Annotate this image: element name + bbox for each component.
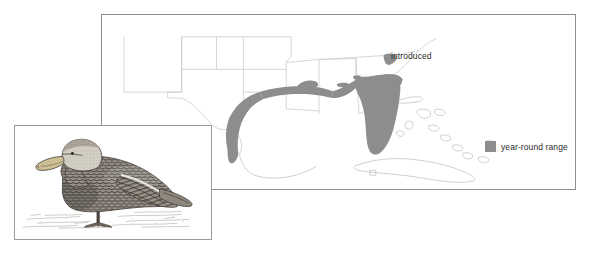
introduced-annotation-label: introduced xyxy=(391,51,432,61)
legend-swatch-year-round-range xyxy=(485,141,496,152)
illustration-panel xyxy=(14,125,212,240)
range-map-figure: introduced year-round range xyxy=(0,0,591,253)
legend-label-year-round-range: year-round range xyxy=(501,142,568,152)
year-round-range-shading xyxy=(226,54,403,164)
mottled-duck-illustration xyxy=(15,126,211,239)
map-legend: year-round range xyxy=(485,141,568,152)
duck-eye xyxy=(71,152,74,155)
